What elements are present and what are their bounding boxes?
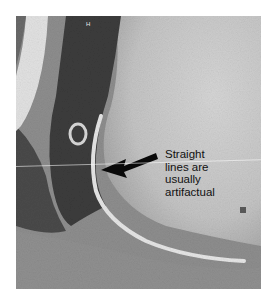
grayscale-scan xyxy=(16,16,261,289)
ct-image-figure: H Straight lines are usually artifactual xyxy=(16,16,261,289)
marker-label: H xyxy=(86,21,90,27)
annotation-text: Straight lines are usually artifactual xyxy=(165,148,215,198)
